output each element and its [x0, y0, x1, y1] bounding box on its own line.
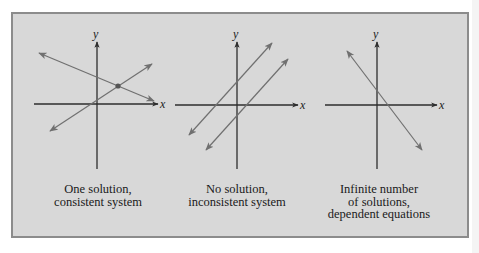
panel-no-solution: x y	[175, 27, 306, 169]
caption-line: No solution,	[162, 183, 312, 196]
parallel-line-upper	[189, 43, 272, 135]
caption-line: One solution,	[23, 183, 173, 196]
caption-no-solution: No solution, inconsistent system	[162, 183, 312, 208]
caption-one-solution: One solution, consistent system	[23, 183, 173, 208]
y-axis-label: y	[232, 27, 239, 41]
intersection-point	[115, 83, 120, 88]
caption-line: Infinite number	[304, 183, 454, 196]
x-axis-label: x	[159, 97, 166, 111]
caption-line: consistent system	[23, 196, 173, 209]
y-axis-label: y	[372, 27, 379, 41]
caption-infinite-solutions: Infinite number of solutions, dependent …	[304, 183, 454, 221]
x-axis-label: x	[299, 98, 306, 112]
y-axis-label: y	[92, 27, 99, 41]
panel-one-solution: x y	[34, 27, 166, 169]
line-increasing	[50, 64, 152, 131]
x-axis-label: x	[438, 98, 445, 112]
caption-line: inconsistent system	[162, 196, 312, 209]
panel-infinite-solutions: x y	[325, 27, 445, 169]
coincident-line	[347, 51, 422, 150]
caption-line: dependent equations	[304, 208, 454, 221]
